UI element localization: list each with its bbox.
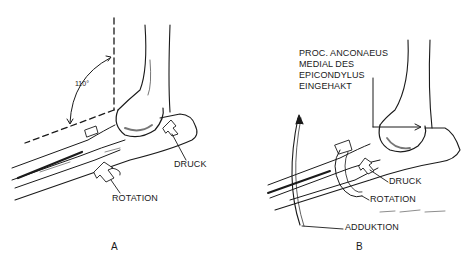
angle-label: 110° xyxy=(75,80,89,87)
elbow-diagram-illustration xyxy=(0,0,473,260)
panel-b-pressure-label: DRUCK xyxy=(389,176,422,187)
panel-a-rotation-label: ROTATION xyxy=(112,193,158,204)
callout-line-3: EPICONDYLUS xyxy=(299,70,365,81)
panel-b-adduction-label: ADDUKTION xyxy=(345,222,399,233)
callout-line-2: MEDIAL DES xyxy=(299,59,354,70)
panel-b-drawing xyxy=(268,40,460,229)
callout-line-4: EINGEHAKT xyxy=(299,81,352,92)
panel-b-rotation-label: ROTATION xyxy=(370,194,416,205)
panel-a-drawing xyxy=(12,18,197,200)
panel-a-pressure-label: DRUCK xyxy=(174,159,207,170)
callout-line-1: PROC. ANCONAEUS xyxy=(299,48,388,59)
panel-a-label: A xyxy=(111,241,118,252)
panel-b-label: B xyxy=(356,241,363,252)
